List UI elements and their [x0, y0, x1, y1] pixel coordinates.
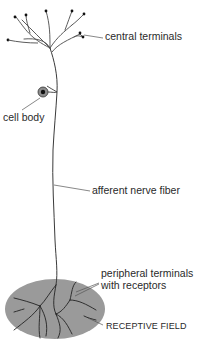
afferent-fiber-leader [54, 185, 90, 191]
central-terminals [16, 11, 84, 52]
afferent-nerve-fiber-line [50, 48, 57, 285]
label-peripheral-terminals: peripheral terminals [101, 268, 193, 279]
label-cell-body: cell body [3, 112, 44, 123]
cell-body-shape [38, 86, 57, 97]
neuron-illustration [0, 0, 207, 348]
label-afferent-nerve-fiber: afferent nerve fiber [92, 185, 180, 196]
label-with-receptors: with receptors [101, 280, 166, 291]
label-receptive-field: RECEPTIVE FIELD [106, 321, 187, 332]
central-terminals-leader [84, 35, 103, 38]
terminal-dots [7, 10, 86, 42]
neuron-diagram: central terminals cell body afferent ner… [0, 0, 207, 348]
cell-body-leader [22, 98, 40, 110]
label-central-terminals: central terminals [105, 31, 182, 42]
receptive-field-area [5, 279, 105, 339]
